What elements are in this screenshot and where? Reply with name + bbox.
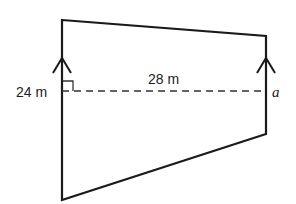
trapezium-diagram: 24 m 28 m a [0, 0, 296, 204]
right-side-label: a [272, 84, 280, 100]
height-label: 28 m [148, 71, 179, 87]
left-side-label: 24 m [16, 84, 47, 100]
trapezium-shape [62, 20, 266, 200]
right-angle-marker [63, 81, 73, 91]
